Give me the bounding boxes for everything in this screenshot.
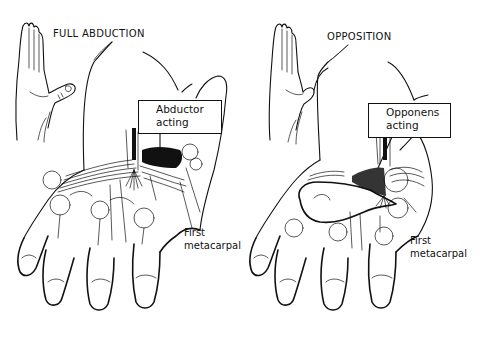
panel-title: FULL ABDUCTION	[53, 28, 145, 39]
main-hand-abduction	[18, 42, 227, 310]
abductor-muscle-fibers	[58, 128, 202, 228]
panel-full-abduction: FULL ABDUCTION Abductor acting First met…	[0, 0, 240, 337]
opponens-callout-box: Opponens acting	[368, 103, 451, 138]
note-line-1: First	[410, 235, 467, 248]
hand-opposition-illustration	[240, 0, 480, 337]
note-line-2: metacarpal	[184, 240, 241, 253]
small-hand-opposition-icon	[269, 24, 328, 144]
note-line-2: metacarpal	[410, 248, 467, 261]
callout-line-2: acting	[386, 119, 450, 132]
opponens-muscle-fibers	[308, 130, 424, 212]
title-leader-line	[328, 45, 348, 62]
first-metacarpal-label: First metacarpal	[410, 235, 467, 260]
callout-line-1: Abductor	[156, 103, 221, 116]
panel-opposition: OPPOSITION Opponens acting First metacar…	[240, 0, 480, 337]
callout-line-2: acting	[156, 116, 221, 129]
hand-abduction-illustration	[0, 0, 240, 337]
first-metacarpal-label: First metacarpal	[184, 227, 241, 252]
abductor-callout-box: Abductor acting	[138, 100, 222, 134]
panel-title: OPPOSITION	[327, 31, 392, 42]
small-hand-abduction-icon	[16, 23, 75, 142]
callout-line-1: Opponens	[386, 106, 450, 119]
main-hand-opposition	[250, 45, 432, 310]
note-line-1: First	[184, 227, 241, 240]
